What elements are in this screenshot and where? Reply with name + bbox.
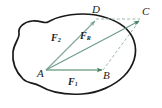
vector-label-fr-base: F: [80, 30, 87, 41]
vector-label-f2-base: F: [51, 32, 58, 43]
point-label-b: B: [103, 70, 110, 81]
vector-f2-arrow: [46, 21, 95, 70]
vector-label-fr-subscript: R: [87, 35, 91, 41]
force-parallelogram-figure: [0, 0, 162, 108]
vector-label-f2-subscript: 2: [58, 37, 61, 43]
vector-label-f1: F1: [68, 77, 78, 87]
point-label-a: A: [37, 68, 44, 79]
vector-label-f2: F2: [51, 33, 61, 43]
point-label-d: D: [92, 4, 100, 15]
vector-label-fr: FR: [80, 31, 91, 41]
point-label-c: C: [142, 6, 149, 17]
vector-label-f1-base: F: [68, 76, 75, 87]
vector-label-f1-subscript: 1: [75, 81, 78, 87]
vector-fr-arrow: [46, 21, 139, 70]
